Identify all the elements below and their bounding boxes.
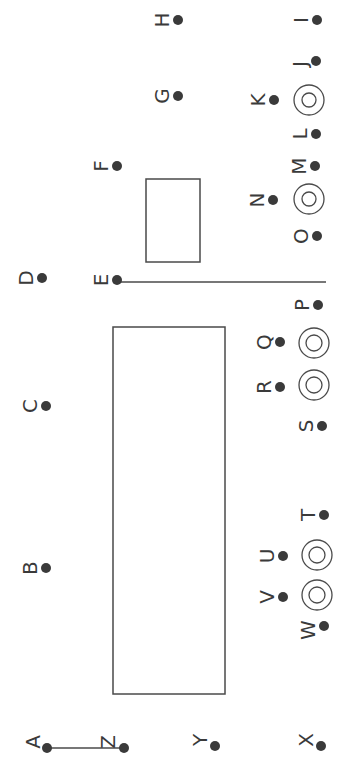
target-near-K-icon — [294, 85, 324, 115]
point-label-w: W — [298, 620, 318, 640]
point-label-a: A — [23, 732, 43, 752]
target-near-U-icon — [302, 540, 332, 570]
point-w-dot — [319, 621, 329, 631]
point-j-dot — [311, 56, 321, 66]
point-o-dot — [312, 231, 322, 241]
point-label-d: D — [16, 268, 36, 288]
point-q-dot — [275, 337, 285, 347]
point-label-j: J — [290, 54, 310, 74]
point-label-h: H — [152, 10, 172, 30]
point-label-x: X — [296, 730, 316, 750]
point-z-dot — [119, 743, 129, 753]
point-label-f: F — [91, 156, 111, 176]
point-k-dot — [269, 95, 279, 105]
point-f-dot — [112, 161, 122, 171]
point-label-m: M — [289, 156, 309, 176]
point-label-s: S — [296, 416, 316, 436]
point-label-v: V — [257, 587, 277, 607]
point-label-r: R — [254, 377, 274, 397]
point-p-dot — [313, 300, 323, 310]
point-v-dot — [278, 592, 288, 602]
point-b-dot — [41, 563, 51, 573]
large-rectangle — [113, 327, 225, 694]
target-near-N-icon — [294, 184, 324, 214]
point-e-dot — [112, 275, 122, 285]
point-l-dot — [311, 129, 321, 139]
target-near-V-icon — [302, 580, 332, 610]
point-label-z: Z — [98, 732, 118, 752]
point-m-dot — [310, 161, 320, 171]
point-n-dot — [268, 195, 278, 205]
point-label-c: C — [20, 396, 40, 416]
point-label-q: Q — [254, 332, 274, 352]
point-label-y: Y — [190, 730, 210, 750]
points-layer — [37, 15, 329, 753]
target-near-R-icon — [299, 370, 329, 400]
point-c-dot — [41, 401, 51, 411]
point-h-dot — [173, 15, 183, 25]
point-label-b: B — [20, 558, 40, 578]
point-label-g: G — [152, 86, 172, 106]
point-label-t: T — [298, 505, 318, 525]
point-d-dot — [37, 273, 47, 283]
small-rectangle — [146, 179, 200, 262]
point-label-k: K — [248, 90, 268, 110]
point-label-o: O — [291, 226, 311, 246]
shapes-layer — [47, 179, 326, 748]
point-label-n: N — [247, 190, 267, 210]
point-t-dot — [319, 510, 329, 520]
point-i-dot — [312, 15, 322, 25]
point-label-i: I — [291, 10, 311, 30]
point-label-e: E — [91, 270, 111, 290]
point-u-dot — [278, 551, 288, 561]
point-s-dot — [317, 421, 327, 431]
point-r-dot — [275, 382, 285, 392]
point-g-dot — [173, 91, 183, 101]
point-label-u: U — [257, 546, 277, 566]
diagram-canvas — [0, 0, 342, 765]
point-label-l: L — [290, 124, 310, 144]
target-near-Q-icon — [299, 328, 329, 358]
point-label-p: P — [292, 295, 312, 315]
